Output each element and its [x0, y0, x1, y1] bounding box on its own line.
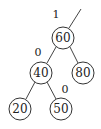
node-label: 40 [33, 66, 48, 80]
tree-node-40: 40 [30, 62, 52, 84]
node-label: 20 [12, 102, 27, 116]
tree-node-80: 80 [72, 62, 94, 84]
balance-label-50: 0 [62, 83, 69, 96]
edge-40-50 [47, 82, 56, 99]
node-label: 60 [55, 31, 70, 45]
tree-node-20: 20 [9, 98, 31, 120]
node-label: 50 [53, 102, 68, 116]
tree-node-50: 50 [50, 98, 72, 120]
edge-60-80 [70, 47, 78, 63]
edge-40-20 [26, 82, 35, 99]
tree-node-60: 60 [52, 27, 74, 49]
tree-diagram: 60 40 80 20 50 1 0 0 [0, 0, 101, 129]
balance-label-60: 1 [53, 8, 60, 21]
edge-parent-60 [69, 9, 81, 28]
balance-label-40: 0 [35, 46, 42, 59]
node-label: 80 [75, 66, 90, 80]
edge-60-40 [47, 47, 56, 63]
